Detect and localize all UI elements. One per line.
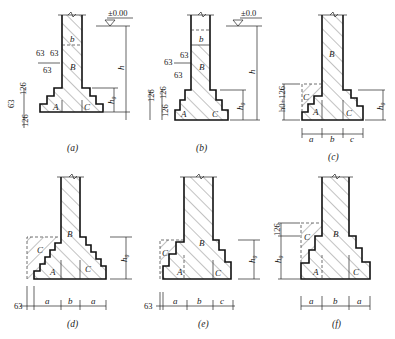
bottom-dim-label: c xyxy=(220,296,224,306)
elevation-label: ±0.00 xyxy=(108,8,128,18)
step-dim-label: 126 xyxy=(18,82,28,95)
zone-a-label: A xyxy=(312,267,319,277)
left-dim-label: h0+126 xyxy=(277,86,287,112)
zone-a-label: A xyxy=(52,102,59,112)
zone-b-label: B xyxy=(199,238,205,248)
offset-dim-label: 63 xyxy=(144,301,153,311)
step-dim-label: 126 xyxy=(158,86,168,99)
effective-depth-label: h₀ xyxy=(247,255,257,263)
zone-c-label: C xyxy=(162,248,169,258)
zone-c-label: C xyxy=(37,245,44,255)
step-dim-label: 126 xyxy=(160,104,170,117)
panel-d: B C A C h₀ 63 a b a (d) xyxy=(14,174,132,330)
offset-dim-label: 63 xyxy=(164,57,173,67)
caption: (e) xyxy=(198,319,209,330)
caption: (b) xyxy=(196,143,207,154)
step-dim-label: 126 xyxy=(20,114,30,127)
effective-depth-label: h₀ xyxy=(235,102,245,110)
bottom-dim-label: b xyxy=(197,296,202,306)
bottom-dim-label: a xyxy=(309,296,314,306)
height-label: h xyxy=(116,65,126,70)
offset-dim-label: 63 xyxy=(36,48,45,58)
caption: (c) xyxy=(328,152,339,163)
panel-a: b B A C ±0.00 h h₀ 63 63 63 126 63 126 (… xyxy=(6,8,133,154)
bottom-dim-label: b xyxy=(333,296,338,306)
caption: (f) xyxy=(332,319,341,330)
elevation-marker-icon xyxy=(105,20,115,26)
zone-c-label: C xyxy=(84,102,91,112)
effective-depth-label: h₀ xyxy=(375,102,385,110)
bottom-dim-label: a xyxy=(173,296,178,306)
zone-b-label: B xyxy=(333,229,339,239)
elevation-marker-icon xyxy=(233,20,243,26)
zone-c-label: C xyxy=(346,108,353,118)
bottom-dim-label: a xyxy=(309,134,314,144)
zone-b-label: B xyxy=(329,49,335,59)
zone-b-label: B xyxy=(67,229,73,239)
offset-dim-label: 63 xyxy=(174,70,183,80)
zone-b-label: B xyxy=(70,62,76,72)
zone-c-label: C xyxy=(353,267,360,277)
bottom-dim-label: b xyxy=(68,296,73,306)
width-label: b xyxy=(70,34,75,44)
caption: (a) xyxy=(67,143,78,154)
foundation-diagram: b B A C ±0.00 h h₀ 63 63 63 126 63 126 (… xyxy=(0,0,395,339)
zone-c-label: C xyxy=(215,268,222,278)
bottom-dim-label: a xyxy=(45,296,50,306)
bottom-dim-label: a xyxy=(357,296,362,306)
offset-dim-label: 63 xyxy=(43,65,52,75)
zone-c-label: C xyxy=(304,232,311,242)
effective-depth-label: h₀ xyxy=(273,255,283,263)
height-label: h xyxy=(247,69,257,74)
step-dim-label: 126 xyxy=(146,89,156,102)
offset-dim-label: 63 xyxy=(180,50,189,60)
panel-c: B C A C h0+126 h₀ a b c (c) xyxy=(277,12,386,163)
zone-a-label: A xyxy=(312,107,319,117)
zone-a-label: A xyxy=(49,267,56,277)
panel-b: b B A C ±0.0 h h₀ 63 63 63 126 126 126 (… xyxy=(146,8,262,154)
bottom-dim-label: c xyxy=(350,134,354,144)
zone-c-label: C xyxy=(303,92,310,102)
panel-e: B C A C h₀ 63 a b c (e) xyxy=(144,174,260,330)
width-label: b xyxy=(199,34,204,44)
caption: (d) xyxy=(67,319,78,330)
zone-b-label: B xyxy=(199,62,205,72)
zone-c-label: C xyxy=(85,264,92,274)
offset-dim-label: 63 xyxy=(50,48,59,58)
bottom-dim-label: b xyxy=(330,134,335,144)
panel-f: B C A C 126 h₀ a b a (f) xyxy=(272,174,370,330)
elevation-label: ±0.0 xyxy=(241,8,256,18)
offset-dim-label: 63 xyxy=(14,301,23,311)
zone-c-label: C xyxy=(212,109,219,119)
bottom-dim-label: a xyxy=(91,296,96,306)
zone-a-label: A xyxy=(176,267,183,277)
step-dim-label: 63 xyxy=(6,100,16,109)
effective-depth-label: h₀ xyxy=(106,96,116,104)
zone-a-label: A xyxy=(180,109,187,119)
effective-depth-label: h₀ xyxy=(119,254,129,262)
top-dim-label: 126 xyxy=(272,223,282,236)
